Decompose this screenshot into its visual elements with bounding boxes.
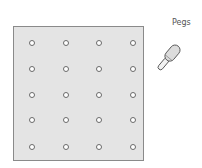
peg-hole — [130, 40, 136, 46]
peg-hole — [29, 144, 35, 150]
peg-hole — [63, 92, 69, 98]
peg-hole — [63, 117, 69, 123]
peg-hole — [130, 92, 136, 98]
peg-hole — [130, 117, 136, 123]
geoboard — [13, 26, 144, 161]
pegs-label: Pegs — [172, 18, 191, 27]
peg-hole — [63, 40, 69, 46]
peg-hole — [29, 117, 35, 123]
peg-hole — [96, 144, 102, 150]
peg-hole — [29, 92, 35, 98]
peg-hole — [96, 92, 102, 98]
peg-hole — [130, 144, 136, 150]
peg-hole — [96, 66, 102, 72]
peg-hole — [96, 40, 102, 46]
peg-hole — [130, 66, 136, 72]
peg-hole — [96, 117, 102, 123]
peg-icon — [152, 40, 186, 76]
peg-hole — [63, 66, 69, 72]
peg-hole — [63, 144, 69, 150]
peg-hole — [29, 66, 35, 72]
peg-hole — [29, 40, 35, 46]
